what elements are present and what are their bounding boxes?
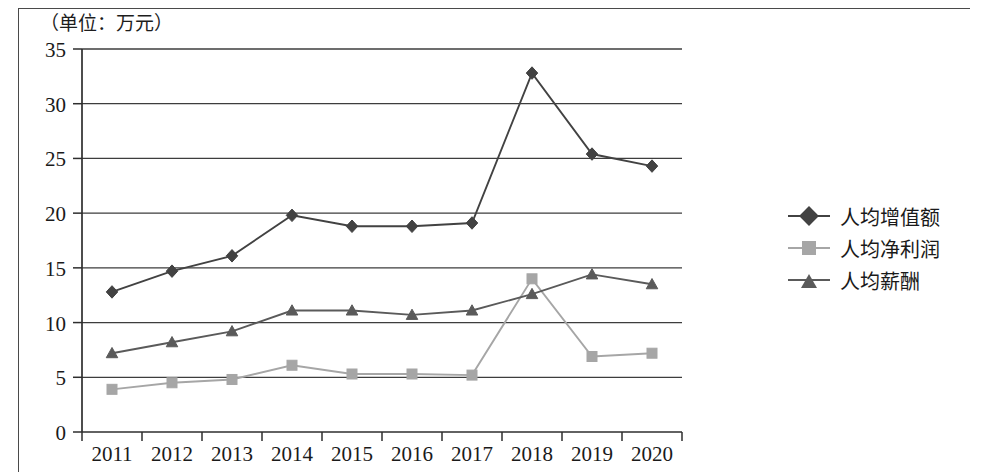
legend-label: 人均薪酬: [840, 266, 920, 295]
legend-item-1[interactable]: 人均增值额: [788, 200, 978, 232]
y-tick-label: 25: [45, 147, 66, 171]
chart-page: （单位：万元） 05101520253035 20112012201320142…: [0, 0, 985, 472]
x-tick-label: 2018: [511, 442, 553, 466]
data-series: [106, 67, 658, 394]
legend-swatch-triangle: [788, 270, 830, 290]
legend-label: 人均增值额: [840, 202, 940, 231]
data-marker-square: [107, 384, 117, 394]
x-tick-label: 2012: [151, 442, 193, 466]
x-tick-label: 2019: [571, 442, 613, 466]
data-marker-square: [287, 360, 297, 370]
x-tick-label: 2011: [91, 442, 132, 466]
y-tick-label: 0: [56, 421, 67, 445]
diamond-marker-icon: [799, 206, 819, 226]
triangle-marker-icon: [801, 274, 817, 288]
data-marker-triangle: [586, 269, 598, 279]
x-tick-label: 2017: [451, 442, 493, 466]
x-tick-label: 2020: [631, 442, 673, 466]
data-marker-diamond: [466, 217, 478, 230]
y-axis-tick-labels: 05101520253035: [45, 38, 66, 445]
data-marker-square: [407, 369, 417, 379]
series-2: [107, 274, 657, 395]
square-marker-icon: [802, 241, 816, 255]
x-tick-label: 2013: [211, 442, 253, 466]
x-tick-label: 2014: [271, 442, 314, 466]
data-marker-diamond: [286, 209, 298, 221]
legend-swatch-diamond: [788, 206, 830, 226]
series-1: [106, 67, 658, 298]
series-3: [106, 269, 658, 358]
legend-item-3[interactable]: 人均薪酬: [788, 264, 978, 296]
data-marker-diamond: [346, 220, 358, 233]
y-tick-label: 15: [45, 257, 66, 281]
y-tick-label: 20: [45, 202, 66, 226]
data-marker-square: [527, 274, 537, 284]
x-axis-tick-labels: 2011201220132014201520162017201820192020: [91, 442, 673, 466]
y-tick-label: 30: [45, 93, 66, 117]
axis-ticks: [73, 49, 682, 441]
series-line: [112, 274, 652, 353]
y-tick-label: 35: [45, 38, 66, 62]
data-marker-square: [227, 374, 237, 384]
series-line: [112, 279, 652, 390]
legend-item-2[interactable]: 人均净利润: [788, 232, 978, 264]
series-line: [112, 73, 652, 292]
x-tick-label: 2016: [391, 442, 433, 466]
data-marker-diamond: [406, 220, 418, 233]
legend-swatch-square: [788, 238, 830, 258]
data-marker-square: [167, 378, 177, 388]
data-marker-diamond: [166, 265, 178, 278]
data-marker-square: [467, 370, 477, 380]
data-marker-diamond: [226, 250, 238, 263]
gridlines: [82, 49, 682, 377]
data-marker-square: [587, 351, 597, 361]
x-tick-label: 2015: [331, 442, 373, 466]
legend-label: 人均净利润: [840, 234, 940, 263]
data-marker-diamond: [646, 160, 658, 173]
data-marker-square: [347, 369, 357, 379]
y-tick-label: 10: [45, 312, 66, 336]
data-marker-diamond: [106, 286, 118, 299]
y-tick-label: 5: [56, 366, 67, 390]
data-marker-square: [647, 348, 657, 358]
chart-legend: 人均增值额人均净利润人均薪酬: [788, 200, 978, 296]
